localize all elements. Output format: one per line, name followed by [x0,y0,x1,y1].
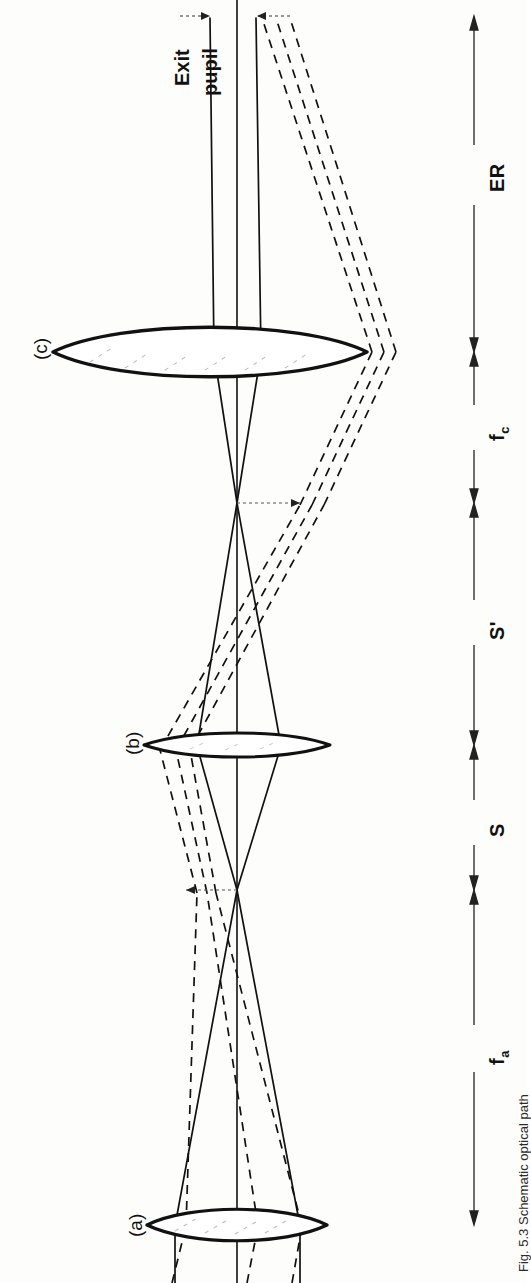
dim-label-Sprime: S' [486,621,509,640]
dim-label-fa-sub: a [497,1050,512,1058]
dim-label-ER: ER [486,163,509,192]
exit-pupil-label-line1: Exit [172,49,193,86]
lens-b-label: (b) [122,732,144,755]
dim-label-S-text: S [486,823,508,837]
lens-c-label: (c) [30,338,52,360]
dim-fc [470,352,478,503]
dim-label-fc: fc [486,426,512,441]
focus-marker-1 [186,886,237,894]
figure-caption: Fig. 5.3 Schematic optical path [516,1094,531,1272]
dim-label-fc-sub: c [497,426,512,434]
focus-marker-2 [237,499,300,507]
dim-Sprime [470,503,478,745]
dim-label-Sprime-text: S' [486,621,508,640]
dim-label-fc-text: f [486,434,508,441]
chief-rays-dashed [160,18,396,1283]
lens-a-label: (a) [125,1214,147,1237]
dim-label-S: S [486,823,509,837]
dim-label-fa: fa [486,1050,512,1065]
dim-fa [470,890,478,1225]
dim-label-ER-text: ER [486,163,508,192]
dimension-ruler [470,16,478,1225]
lens-b[interactable] [144,733,330,757]
dim-label-fa-text: f [486,1058,508,1065]
exit-pupil-marker [180,12,290,20]
dim-ER [470,16,478,352]
exit-pupil-label-line2: pupil [200,48,221,96]
lens-c[interactable] [53,327,367,377]
dim-S [470,745,478,890]
